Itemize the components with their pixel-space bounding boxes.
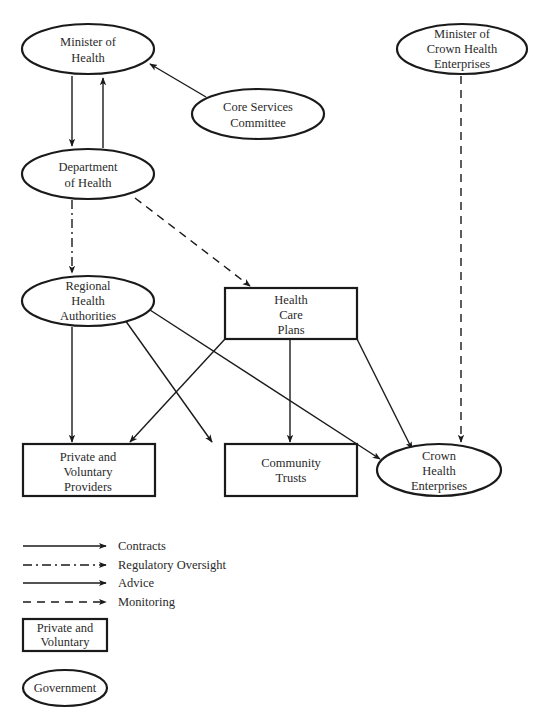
edge-hcp-to-che — [357, 339, 412, 449]
node-label: Minister of — [60, 35, 117, 49]
node-label: Health — [71, 294, 105, 308]
node-minister-of-health: Minister of Health — [22, 24, 154, 74]
legend-item-regulatory-oversight: Regulatory Oversight — [23, 558, 226, 572]
legend-box-private-voluntary: Private and Voluntary — [23, 619, 107, 651]
legend-label: Advice — [118, 576, 155, 590]
edge-regional-to-community — [125, 320, 212, 442]
node-label: Minister of — [434, 27, 491, 41]
node-label: Health — [274, 293, 308, 307]
node-label: Crown — [422, 449, 457, 463]
legend-label: Contracts — [118, 539, 166, 553]
node-minister-of-crown-health-enterprises: Minister of Crown Health Enterprises — [397, 24, 527, 74]
node-label: of Health — [65, 176, 113, 190]
legend: Contracts Regulatory Oversight Advice Mo… — [23, 539, 226, 706]
edge-department-to-health-care-plans — [135, 198, 250, 286]
node-label: Plans — [277, 323, 304, 337]
node-label: Trusts — [276, 471, 307, 485]
node-label: Core Services — [223, 100, 293, 114]
legend-item-contracts: Contracts — [23, 539, 166, 553]
node-label: Enterprises — [434, 57, 490, 71]
node-label: Providers — [64, 480, 112, 494]
node-label: Regional — [65, 279, 111, 293]
node-label: Care — [279, 308, 303, 322]
node-label: Voluntary — [63, 465, 113, 479]
legend-box-label: Voluntary — [40, 635, 90, 649]
node-label: Committee — [230, 116, 286, 130]
legend-item-monitoring: Monitoring — [23, 595, 176, 609]
node-department-of-health: Department of Health — [22, 149, 154, 199]
legend-label: Monitoring — [118, 595, 176, 609]
org-diagram: Minister of Health Core Services Committ… — [0, 0, 550, 718]
legend-label: Regulatory Oversight — [118, 558, 226, 572]
node-label: Enterprises — [411, 479, 467, 493]
node-label: Community — [261, 456, 321, 470]
node-health-care-plans: Health Care Plans — [225, 288, 357, 339]
legend-ellipse-label: Government — [34, 681, 97, 695]
node-label: Department — [58, 160, 118, 174]
node-label: Health — [71, 51, 105, 65]
legend-ellipse-government: Government — [23, 670, 107, 706]
legend-box-label: Private and — [37, 621, 94, 635]
node-community-trusts: Community Trusts — [225, 444, 357, 496]
node-label: Crown Health — [427, 42, 498, 56]
legend-item-advice: Advice — [23, 576, 155, 590]
node-crown-health-enterprises: Crown Health Enterprises — [377, 444, 501, 496]
node-core-services-committee: Core Services Committee — [192, 89, 324, 139]
node-label: Health — [422, 464, 456, 478]
node-regional-health-authorities: Regional Health Authorities — [22, 276, 154, 326]
node-label: Authorities — [60, 309, 116, 323]
node-label: Private and — [60, 450, 117, 464]
edge-hcp-to-private — [130, 339, 225, 442]
edge-core-services-to-minister — [150, 64, 206, 97]
node-private-voluntary-providers: Private and Voluntary Providers — [23, 444, 155, 496]
